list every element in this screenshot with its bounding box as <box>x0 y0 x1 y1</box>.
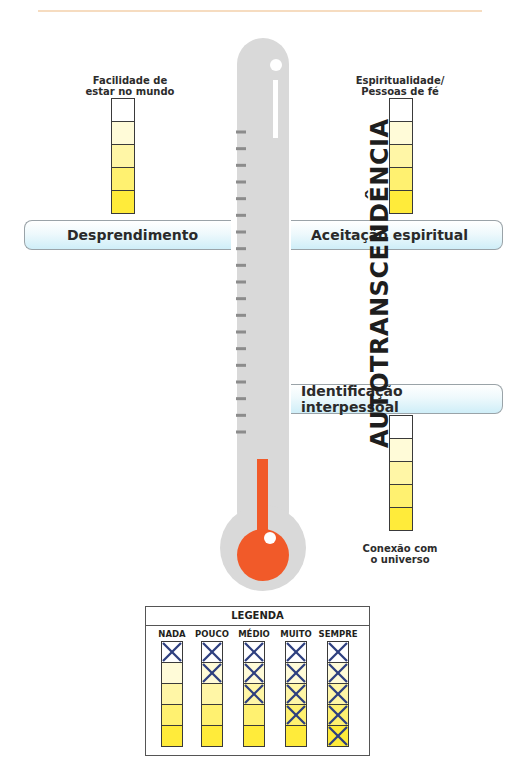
legend-cell <box>286 684 306 705</box>
legend-cell <box>286 726 306 747</box>
mercury-highlight <box>264 532 276 544</box>
caption-line: o universo <box>350 554 450 565</box>
thermometer-tick <box>236 197 246 200</box>
cross-mark-icon <box>328 684 348 704</box>
cross-mark-icon <box>286 705 306 725</box>
highlight-bar <box>273 80 278 138</box>
caption-line: estar no mundo <box>80 86 180 97</box>
legend-cell <box>286 663 306 684</box>
legend-column-médio: MÉDIO <box>234 629 274 747</box>
legend-cell <box>244 663 264 684</box>
band-desprendimento: Desprendimento <box>24 220 231 250</box>
band-label: Identificação interpessoal <box>301 383 502 415</box>
scale-cell <box>112 145 134 168</box>
cross-mark-icon <box>328 642 348 662</box>
highlight-dot <box>270 59 282 71</box>
cross-mark-icon <box>328 663 348 683</box>
cross-mark-icon <box>286 684 306 704</box>
legend-column-label: MUITO <box>276 629 316 641</box>
thermometer-tick <box>236 281 246 284</box>
band-label: Desprendimento <box>67 227 198 243</box>
caption-line: Espiritualidade/ <box>350 75 450 86</box>
thermometer-tick <box>236 131 246 134</box>
cross-mark-icon <box>162 642 182 662</box>
thermometer-tick <box>236 247 246 250</box>
legend-cell <box>162 642 182 663</box>
legend-column-label: NADA <box>152 629 192 641</box>
thermometer-tick <box>236 264 246 267</box>
caption-line: Facilidade de <box>80 75 180 86</box>
scale-caption-facilidade: Facilidade de estar no mundo <box>80 75 180 97</box>
legend-column-label: MÉDIO <box>234 629 274 641</box>
legend-title: LEGENDA <box>146 607 369 626</box>
legend-scale <box>201 641 223 747</box>
scale-cell <box>112 191 134 214</box>
mercury-bulb <box>237 529 289 581</box>
cross-mark-icon <box>202 663 222 683</box>
legend-scale <box>327 641 349 747</box>
legend-cell <box>286 642 306 663</box>
scale-cell <box>112 122 134 145</box>
cross-mark-icon <box>286 642 306 662</box>
scale-cell <box>390 508 412 531</box>
legend-scale <box>161 641 183 747</box>
thermometer-tick <box>236 147 246 150</box>
thermometer-tick <box>236 431 246 434</box>
legend-scale <box>243 641 265 747</box>
legend-column-muito: MUITO <box>276 629 316 747</box>
legend-column-nada: NADA <box>152 629 192 747</box>
thermometer-tick <box>236 331 246 334</box>
legend-column-sempre: SEMPRE <box>318 629 358 747</box>
thermometer-tick <box>236 347 246 350</box>
legend-cell <box>244 642 264 663</box>
legend-cell <box>328 726 348 747</box>
legend-scale <box>285 641 307 747</box>
cross-mark-icon <box>286 663 306 683</box>
legend-column-label: SEMPRE <box>318 629 358 641</box>
cross-mark-icon <box>328 726 348 746</box>
thermometer-tick <box>236 414 246 417</box>
thermometer-tick <box>236 164 246 167</box>
legend-cell <box>328 663 348 684</box>
legend-cell <box>162 663 182 684</box>
cross-mark-icon <box>244 684 264 704</box>
cross-mark-icon <box>328 705 348 725</box>
thermometer-tick <box>236 397 246 400</box>
legend-cell <box>328 642 348 663</box>
legend-cell <box>162 705 182 726</box>
thermometer-tick <box>236 381 246 384</box>
scale-caption-conexao: Conexão com o universo <box>350 543 450 565</box>
legend-cell <box>162 726 182 747</box>
thermometer-tick <box>236 297 246 300</box>
scale-cell <box>390 462 412 485</box>
scale-cell <box>390 485 412 508</box>
cross-mark-icon <box>244 663 264 683</box>
legend-cell <box>286 705 306 726</box>
legend: LEGENDA NADAPOUCOMÉDIOMUITOSEMPRE <box>145 606 370 756</box>
cross-mark-icon <box>244 642 264 662</box>
thermometer-tick <box>236 214 246 217</box>
legend-cell <box>244 684 264 705</box>
caption-line: Conexão com <box>350 543 450 554</box>
scale-caption-espiritualidade: Espiritualidade/ Pessoas de fé <box>350 75 450 97</box>
band-identificacao-interpessoal: Identificação interpessoal <box>291 384 503 414</box>
legend-cell <box>162 684 182 705</box>
scale-facilidade <box>111 98 135 214</box>
legend-cell <box>244 726 264 747</box>
legend-column-label: POUCO <box>192 629 232 641</box>
thermometer-tick <box>236 181 246 184</box>
legend-cell <box>328 705 348 726</box>
band-aceitacao-espiritual: Aceitação espiritual <box>291 220 503 250</box>
legend-cell <box>202 642 222 663</box>
caption-line: Pessoas de fé <box>350 86 450 97</box>
legend-cell <box>328 684 348 705</box>
thermometer-tick <box>236 231 246 234</box>
thermometer-tick <box>236 314 246 317</box>
mercury-column <box>257 459 268 539</box>
legend-cell <box>202 726 222 747</box>
scale-cell <box>112 168 134 191</box>
cross-mark-icon <box>202 642 222 662</box>
legend-cell <box>202 684 222 705</box>
thermometer-tick <box>236 364 246 367</box>
thermometer-label: AUTOTRANSCENDÊNCIA <box>365 148 395 448</box>
